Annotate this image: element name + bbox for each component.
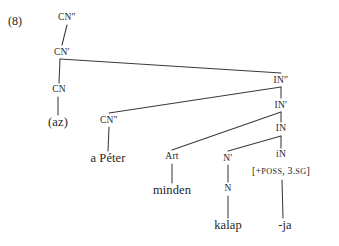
tree-node-az: (az) [48,116,68,129]
tree-branch [172,112,281,150]
syntax-tree-figure: (8) CN″CN′CN(az)CN″a PéterArtmindenIN″IN… [0,0,339,246]
tree-node-in1: IN′ [275,100,288,111]
tree-node-n0: N [224,184,231,194]
tree-node-cn0: CN [52,85,66,95]
tree-branch [109,87,281,113]
tree-branch [108,127,109,151]
tree-node-ja: -ja [278,219,291,232]
tree-node-minden: minden [153,184,191,197]
tree-branch [62,25,67,45]
tree-node-in_small: iN [276,150,286,160]
tree-node-art: Art [165,152,178,162]
tree-node-feat: [+POSS, 3.SG] [252,166,310,176]
tree-branch [228,136,281,151]
tree-node-n1: N′ [223,153,232,164]
tree-node-in0: IN [276,124,286,134]
tree-branch [282,180,283,218]
tree-node-kalap: kalap [214,219,242,232]
tree-branch [60,59,281,73]
tree-node-apeter: a Péter [90,152,125,165]
tree-node-cn2_top: CN″ [58,12,76,23]
tree-node-in2: IN″ [274,75,289,86]
tree-branch [59,59,60,83]
tree-node-cn2_spec: CN″ [100,115,118,126]
tree-node-cn1: CN′ [54,47,70,58]
